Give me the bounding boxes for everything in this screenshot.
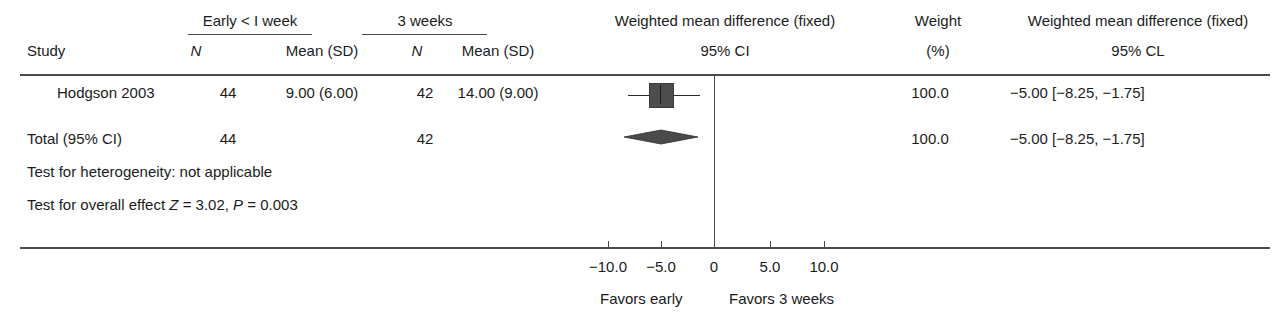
effect-column-header-line1: Weighted mean difference (fixed) (1028, 12, 1248, 30)
mean2-column-header: Mean (SD) (462, 42, 535, 60)
total-row-n2: 42 (417, 130, 434, 148)
axis-tick-label-0: 0 (710, 258, 718, 275)
table-row-mean2: 14.00 (9.00) (458, 84, 539, 102)
forest-plot-figure: Early < I week 3 weeks Weighted mean dif… (0, 0, 1285, 326)
table-row-n2: 42 (417, 84, 434, 102)
table-row-effect: −5.00 [−8.25, −1.75] (1010, 84, 1145, 102)
total-row-weight: 100.0 (911, 130, 949, 148)
table-row-n1: 44 (220, 84, 237, 102)
study-point-estimate-tick (660, 85, 661, 104)
axis-tick--5 (661, 241, 662, 247)
total-row-effect: −5.00 [−8.25, −1.75] (1010, 130, 1145, 148)
total-row-label: Total (95% CI) (27, 130, 122, 148)
weight-column-header-line1: Weight (915, 12, 961, 30)
group-header-early: Early < I week (203, 12, 298, 30)
axis-tick--10 (608, 241, 609, 247)
p-value: = 0.003 (243, 196, 298, 213)
table-row-study-name: Hodgson 2003 (57, 84, 155, 102)
study-column-header: Study (27, 42, 65, 60)
axis-tick-10 (824, 241, 825, 247)
total-row-n1: 44 (220, 130, 237, 148)
group-header-three-weeks-rule (362, 34, 487, 35)
favors-right-label: Favors 3 weeks (729, 290, 834, 307)
overall-effect-note: Test for overall effect Z = 3.02, P = 0.… (27, 196, 298, 214)
z-value: = 3.02, (178, 196, 233, 213)
n2-column-header: N (412, 42, 423, 60)
p-symbol: P (233, 196, 243, 213)
pooled-effect-diamond-marker (624, 129, 698, 145)
axis-tick-label-10: 10.0 (809, 258, 838, 275)
axis-tick-label--10: −10.0 (589, 258, 627, 275)
plot-column-header-line1: Weighted mean difference (fixed) (615, 12, 835, 30)
group-header-early-rule (188, 34, 312, 35)
axis-tick-label--5: −5.0 (646, 258, 676, 275)
effect-column-header-line2: 95% CL (1111, 42, 1164, 60)
null-effect-line (714, 75, 715, 248)
axis-tick-label-5: 5.0 (760, 258, 781, 275)
weight-column-header-line2: (%) (926, 42, 949, 60)
overall-effect-prefix: Test for overall effect (27, 196, 169, 213)
n1-column-header: N (191, 42, 202, 60)
axis-tick-0 (714, 241, 715, 247)
plot-column-header-line2: 95% CI (700, 42, 749, 60)
heterogeneity-note: Test for heterogeneity: not applicable (27, 163, 272, 181)
axis-tick-5 (770, 241, 771, 247)
favors-left-label: Favors early (600, 290, 683, 307)
table-row-mean1: 9.00 (6.00) (286, 84, 359, 102)
mean1-column-header: Mean (SD) (286, 42, 359, 60)
study-effect-square-marker (649, 83, 674, 108)
bottom-separator-rule (20, 247, 1270, 249)
header-separator-rule (20, 74, 1270, 76)
table-row-weight: 100.0 (911, 84, 949, 102)
group-header-three-weeks: 3 weeks (397, 12, 452, 30)
